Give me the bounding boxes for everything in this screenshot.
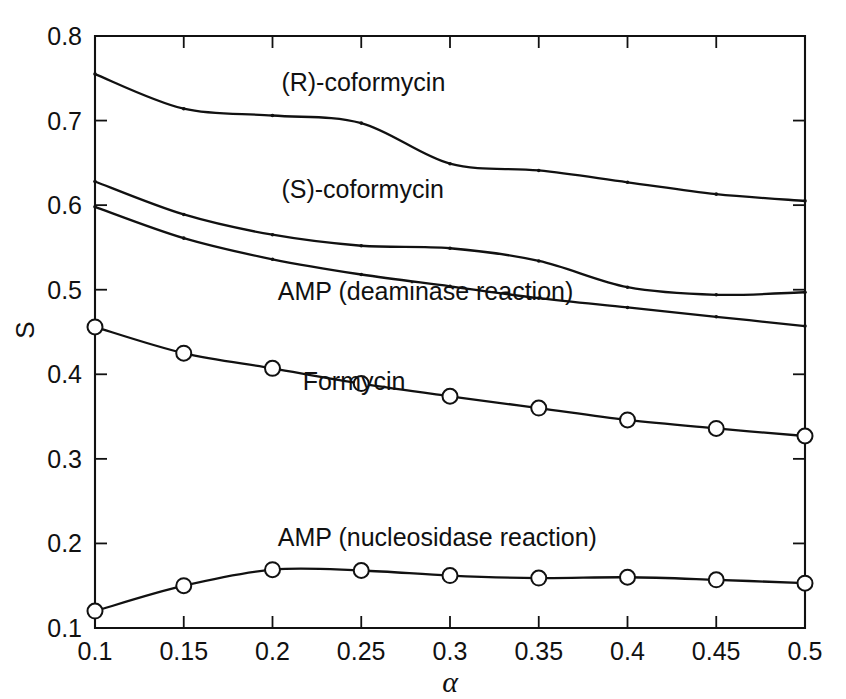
series-marker-circle xyxy=(620,412,635,427)
x-tick-label: 0.15 xyxy=(159,637,208,665)
y-tick-label: 0.1 xyxy=(47,614,82,642)
x-tick-label: 0.3 xyxy=(433,637,468,665)
series-marker-circle xyxy=(443,389,458,404)
series-marker-dot xyxy=(93,205,97,209)
y-tick-label: 0.4 xyxy=(47,360,82,388)
series-label-1: (R)-coformycin xyxy=(281,68,445,96)
series-label-4: Formycin xyxy=(303,367,406,395)
series-marker-circle xyxy=(443,568,458,583)
series-marker-dot xyxy=(714,293,718,297)
series-line xyxy=(95,327,805,436)
x-tick-label: 0.4 xyxy=(610,637,645,665)
y-tick-label: 0.3 xyxy=(47,445,82,473)
series-marker-circle xyxy=(176,578,191,593)
x-axis-title: α xyxy=(442,665,459,698)
y-tick-label: 0.6 xyxy=(47,191,82,219)
x-tick-label: 0.1 xyxy=(78,637,113,665)
series-marker-dot xyxy=(714,315,718,319)
series-marker-circle xyxy=(265,562,280,577)
series-annotations: (R)-coformycin(S)-coformycinAMP (deamina… xyxy=(278,68,597,551)
x-tick-label: 0.2 xyxy=(255,637,290,665)
series-marker-circle xyxy=(265,361,280,376)
series-line xyxy=(95,74,805,201)
series-marker-dot xyxy=(359,121,363,125)
series-marker-circle xyxy=(88,604,103,619)
y-tick-labels: 0.10.20.30.40.50.60.70.8 xyxy=(47,22,82,642)
series-marker-dot xyxy=(626,306,630,310)
series-marker-dot xyxy=(93,180,97,184)
series-marker-circle xyxy=(531,401,546,416)
series-marker-dot xyxy=(93,72,97,76)
series-marker-dot xyxy=(359,273,363,277)
x-tick-label: 0.45 xyxy=(692,637,741,665)
y-tick-label: 0.7 xyxy=(47,107,82,135)
x-tick-label: 0.25 xyxy=(337,637,386,665)
series-marker-dot xyxy=(182,107,186,111)
series-marker-dot xyxy=(182,213,186,217)
series-marker-dot xyxy=(448,246,452,250)
series-marker-circle xyxy=(354,563,369,578)
x-tick-label: 0.35 xyxy=(514,637,563,665)
series-marker-circle xyxy=(531,571,546,586)
x-tick-labels: 0.10.150.20.250.30.350.40.450.5 xyxy=(78,637,823,665)
series-line xyxy=(95,207,805,326)
series-marker-circle xyxy=(709,572,724,587)
series-marker-circle xyxy=(620,570,635,585)
x-tick-label: 0.5 xyxy=(788,637,823,665)
series-marker-dot xyxy=(359,244,363,248)
series-marker-dot xyxy=(448,162,452,166)
series-marker-dot xyxy=(626,285,630,289)
series-marker-dot xyxy=(537,259,541,263)
series-marker-dot xyxy=(803,324,807,328)
series-marker-circle xyxy=(88,319,103,334)
series-marker-circle xyxy=(176,346,191,361)
y-tick-label: 0.5 xyxy=(47,276,82,304)
series-marker-circle xyxy=(709,421,724,436)
series-marker-dot xyxy=(182,236,186,240)
chart-figure: 0.10.150.20.250.30.350.40.450.5 0.10.20.… xyxy=(0,0,846,699)
y-tick-label: 0.2 xyxy=(47,529,82,557)
y-axis-title: S xyxy=(10,321,40,338)
series-marker-circle xyxy=(798,429,813,444)
series-marker-dot xyxy=(271,114,275,118)
series-marker-dot xyxy=(803,290,807,294)
series-marker-dot xyxy=(271,257,275,261)
series-marker-dot xyxy=(271,233,275,237)
series-marker-circle xyxy=(798,576,813,591)
series-marker-dot xyxy=(537,169,541,173)
series-marker-dot xyxy=(626,181,630,185)
series-label-5: AMP (nucleosidase reaction) xyxy=(278,523,597,551)
series-marker-dot xyxy=(714,192,718,196)
series-marker-dot xyxy=(803,199,807,203)
series-label-2: (S)-coformycin xyxy=(281,175,444,203)
y-tick-label: 0.8 xyxy=(47,22,82,50)
series-label-3: AMP (deaminase reaction) xyxy=(278,277,574,305)
line-chart: 0.10.150.20.250.30.350.40.450.5 0.10.20.… xyxy=(0,0,846,699)
